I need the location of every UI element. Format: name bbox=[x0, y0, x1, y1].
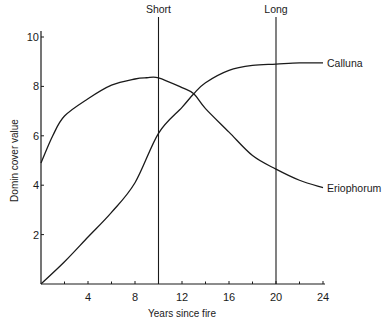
vertical-markers: ShortLong bbox=[146, 3, 288, 284]
y-tick-label: 2 bbox=[33, 229, 39, 241]
series-curves bbox=[41, 63, 323, 284]
x-tick-label: 24 bbox=[317, 291, 329, 303]
y-axis-label: Domin cover value bbox=[9, 119, 20, 202]
line-chart: 4812162024246810 ShortLong CallunaErioph… bbox=[0, 0, 387, 326]
ticks: 4812162024246810 bbox=[27, 31, 329, 303]
marker-label-long: Long bbox=[264, 3, 288, 15]
y-tick-label: 6 bbox=[33, 130, 39, 142]
series-label-calluna: Calluna bbox=[327, 57, 363, 69]
x-tick-label: 12 bbox=[176, 291, 188, 303]
series-label-eriophorum: Eriophorum bbox=[327, 182, 382, 194]
series-labels: CallunaEriophorum bbox=[327, 57, 382, 194]
series-line-calluna bbox=[41, 63, 323, 284]
y-tick-label: 8 bbox=[33, 80, 39, 92]
x-tick-label: 20 bbox=[270, 291, 282, 303]
x-tick-label: 4 bbox=[85, 291, 91, 303]
series-line-eriophorum bbox=[41, 77, 323, 188]
x-axis-label: Years since fire bbox=[148, 308, 216, 319]
marker-label-short: Short bbox=[146, 3, 171, 15]
axes bbox=[41, 31, 325, 284]
y-tick-label: 10 bbox=[27, 31, 39, 43]
x-tick-label: 16 bbox=[223, 291, 235, 303]
x-tick-label: 8 bbox=[132, 291, 138, 303]
y-tick-label: 4 bbox=[33, 179, 39, 191]
